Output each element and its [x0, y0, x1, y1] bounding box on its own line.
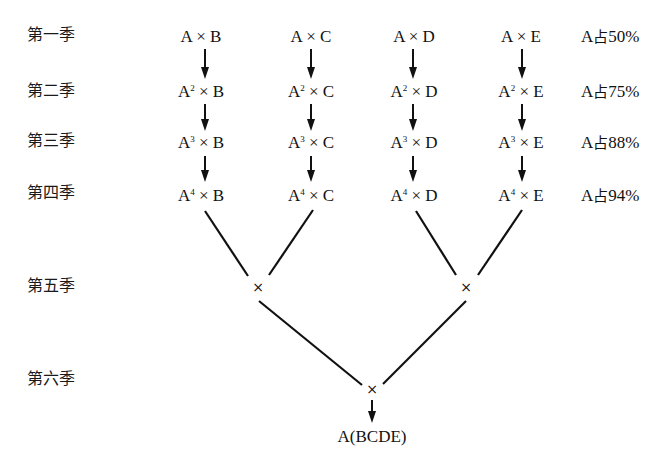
cross-a4-c-gen4: A4 × C — [271, 186, 351, 206]
cross-a-b-gen1: A × B — [161, 27, 241, 47]
cross-a4-d-gen4: A4 × D — [374, 186, 454, 206]
pct-value: 75% — [608, 82, 639, 101]
pct-prefix: A — [581, 82, 593, 101]
pct-prefix: A — [581, 186, 593, 205]
gen4-to-gen5-lines — [205, 210, 522, 276]
cross-a-e-gen1: A × E — [481, 27, 561, 47]
generation-label-6: 第六季 — [27, 369, 107, 389]
cross-a4-e-gen4: A4 × E — [481, 186, 561, 206]
cross-a3-b-gen3: A3 × B — [161, 133, 241, 153]
proportion-gen4: A占94% — [581, 186, 661, 206]
proportion-gen1: A占50% — [581, 27, 661, 47]
pct-value: 50% — [608, 27, 639, 46]
cross-a3-c-gen3: A3 × C — [271, 133, 351, 153]
cross-node-gen5-right: × — [456, 279, 476, 295]
cross-node-gen6: × — [362, 381, 382, 397]
generation-label-4: 第四季 — [27, 183, 107, 203]
generation-label-5: 第五季 — [27, 276, 107, 296]
pct-value: 88% — [608, 133, 639, 152]
connector-lines — [0, 0, 665, 465]
cross-a2-c-gen2: A2 × C — [271, 82, 351, 102]
generation-label-2: 第二季 — [27, 81, 107, 101]
pct-prefix: A — [581, 27, 593, 46]
cross-a3-d-gen3: A3 × D — [374, 133, 454, 153]
down-arrows — [201, 49, 526, 182]
pct-cjk: 占 — [593, 187, 608, 205]
cross-a-d-gen1: A × D — [374, 27, 454, 47]
cross-node-gen5-left: × — [248, 279, 268, 295]
breeding-scheme-diagram: 第一季 第二季 第三季 第四季 第五季 第六季 A × B A × C A × … — [0, 0, 665, 465]
final-arrow — [368, 400, 376, 423]
pct-cjk: 占 — [593, 134, 608, 152]
pct-value: 94% — [608, 186, 639, 205]
proportion-gen3: A占88% — [581, 133, 661, 153]
cross-a2-b-gen2: A2 × B — [161, 82, 241, 102]
final-hybrid-result: A(BCDE) — [312, 427, 432, 447]
cross-a2-d-gen2: A2 × D — [374, 82, 454, 102]
cross-a2-e-gen2: A2 × E — [481, 82, 561, 102]
cross-a-c-gen1: A × C — [271, 27, 351, 47]
cross-a3-e-gen3: A3 × E — [481, 133, 561, 153]
cross-a4-b-gen4: A4 × B — [161, 186, 241, 206]
pct-cjk: 占 — [593, 83, 608, 101]
pct-cjk: 占 — [593, 28, 608, 46]
generation-label-1: 第一季 — [27, 25, 107, 45]
proportion-gen2: A占75% — [581, 82, 661, 102]
generation-label-3: 第三季 — [27, 131, 107, 151]
pct-prefix: A — [581, 133, 593, 152]
gen5-to-gen6-lines — [259, 301, 466, 385]
